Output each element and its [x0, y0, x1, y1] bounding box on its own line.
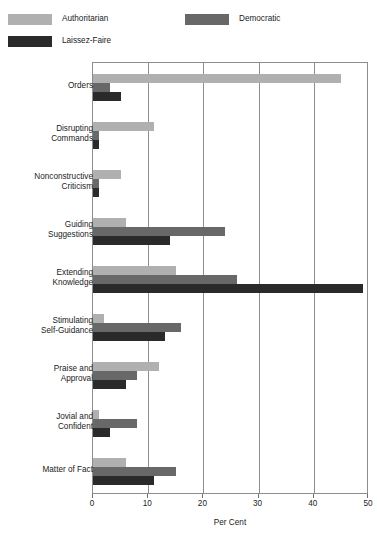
x-tick-mark — [202, 494, 203, 498]
bar — [93, 380, 126, 389]
bar — [93, 362, 159, 371]
x-tick-mark — [367, 494, 368, 498]
x-axis-title: Per Cent — [92, 518, 368, 527]
category-label: ExtendingKnowledge — [5, 268, 93, 287]
bar — [93, 236, 170, 245]
bar-chart: Per Cent 01020304050OrdersDisruptingComm… — [0, 56, 377, 544]
legend-entry-laissez-faire: Laissez-Faire — [8, 36, 111, 47]
category-label-line: Commands — [5, 134, 93, 144]
bar — [93, 92, 121, 101]
bar-group — [93, 266, 367, 293]
category-label-line: Knowledge — [5, 278, 93, 288]
x-tick-mark — [313, 494, 314, 498]
category-label-line: Nonconstructive — [34, 172, 93, 181]
category-label: Orders — [5, 81, 93, 91]
category-label-line: Approval — [5, 374, 93, 384]
category-label: Jovial andConfident — [5, 412, 93, 431]
bar-group — [93, 122, 367, 149]
category-label-line: Extending — [57, 268, 93, 277]
bar-group — [93, 170, 367, 197]
bar — [93, 284, 363, 293]
bar-group — [93, 218, 367, 245]
bar — [93, 227, 225, 236]
x-tick-label: 20 — [187, 500, 217, 508]
legend-label-laissez-faire: Laissez-Faire — [62, 37, 111, 45]
bar — [93, 188, 99, 197]
bar — [93, 170, 121, 179]
x-tick-mark — [92, 494, 93, 498]
bar-group — [93, 410, 367, 437]
bar — [93, 410, 99, 419]
bar-group — [93, 458, 367, 485]
category-label: Praise andApproval — [5, 364, 93, 383]
bar — [93, 266, 176, 275]
x-tick-label: 10 — [132, 500, 162, 508]
x-tick-label: 30 — [243, 500, 273, 508]
bar — [93, 179, 99, 188]
bar — [93, 428, 110, 437]
bar — [93, 122, 154, 131]
bar — [93, 467, 176, 476]
chart-legend: Authoritarian Democratic Laissez-Faire — [0, 0, 377, 56]
legend-label-authoritarian: Authoritarian — [62, 15, 108, 23]
category-label-line: Jovial and — [56, 412, 93, 421]
bar — [93, 74, 341, 83]
x-tick-label: 0 — [77, 500, 107, 508]
category-label-line: Matter of Fact — [42, 465, 93, 474]
category-label-line: Confident — [5, 422, 93, 432]
bar-group — [93, 362, 367, 389]
legend-swatch-democratic — [185, 14, 229, 25]
category-label-line: Self-Guidance — [5, 326, 93, 336]
category-label: Matter of Fact — [5, 465, 93, 475]
legend-swatch-authoritarian — [8, 14, 52, 25]
category-label: GuidingSuggestions — [5, 220, 93, 239]
bar-group — [93, 74, 367, 101]
bar — [93, 131, 99, 140]
category-label-line: Suggestions — [5, 230, 93, 240]
bar — [93, 458, 126, 467]
bar — [93, 275, 237, 284]
category-label-line: Orders — [68, 81, 93, 90]
category-label-line: Praise and — [54, 364, 93, 373]
bar — [93, 314, 104, 323]
legend-entry-democratic: Democratic — [185, 14, 280, 25]
category-label-line: Criticism — [5, 182, 93, 192]
legend-entry-authoritarian: Authoritarian — [8, 14, 108, 25]
category-label-line: Disrupting — [56, 124, 93, 133]
legend-swatch-laissez-faire — [8, 36, 52, 47]
plot-area — [92, 62, 368, 494]
category-label: StimulatingSelf-Guidance — [5, 316, 93, 335]
legend-label-democratic: Democratic — [239, 15, 280, 23]
bar — [93, 476, 154, 485]
bar — [93, 323, 181, 332]
category-label: DisruptingCommands — [5, 124, 93, 143]
bar — [93, 419, 137, 428]
bar — [93, 140, 99, 149]
x-tick-mark — [258, 494, 259, 498]
category-label-line: Guiding — [65, 220, 93, 229]
x-tick-label: 40 — [298, 500, 328, 508]
bar — [93, 218, 126, 227]
bar — [93, 83, 110, 92]
category-label-line: Stimulating — [52, 316, 93, 325]
x-tick-mark — [147, 494, 148, 498]
category-label: NonconstructiveCriticism — [5, 172, 93, 191]
x-tick-label: 50 — [353, 500, 377, 508]
bar — [93, 332, 165, 341]
bar-group — [93, 314, 367, 341]
bar — [93, 371, 137, 380]
